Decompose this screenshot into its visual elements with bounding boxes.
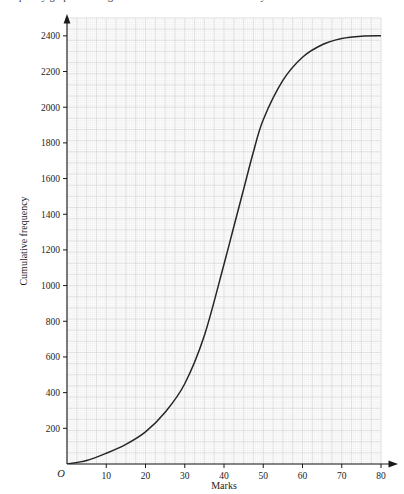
x-tick-label: 60 <box>298 471 308 481</box>
y-tick-label: 800 <box>46 317 61 327</box>
origin-label: O <box>57 468 65 479</box>
y-tick-label: 200 <box>46 424 61 434</box>
y-tick-label: 400 <box>46 388 61 398</box>
y-tick-label: 1800 <box>41 138 60 148</box>
y-tick-label: 1000 <box>41 281 60 291</box>
y-tick-label: 1200 <box>41 245 60 255</box>
y-axis-ticks: 2004006008001000120014001600180020002200… <box>41 31 67 433</box>
y-tick-label: 600 <box>46 352 61 362</box>
x-tick-label: 20 <box>141 471 151 481</box>
grid-major-lines <box>67 18 381 464</box>
y-tick-label: 1400 <box>41 210 60 220</box>
x-tick-label: 40 <box>219 471 229 481</box>
y-tick-label: 2400 <box>41 31 60 41</box>
x-tick-label: 10 <box>102 471 112 481</box>
cumulative-frequency-figure: 2004006008001000120014001600180020002200… <box>0 0 404 494</box>
y-tick-label: 2000 <box>41 103 60 113</box>
x-tick-label: 30 <box>180 471 190 481</box>
y-tick-label: 1600 <box>41 174 60 184</box>
y-axis-title: Cumulative frequency <box>18 196 29 285</box>
x-tick-label: 80 <box>376 471 386 481</box>
x-axis-ticks: 1020304050607080 <box>102 464 387 481</box>
x-axis-arrowhead <box>389 461 399 468</box>
x-axis-title: Marks <box>211 480 237 491</box>
x-tick-label: 50 <box>259 471 269 481</box>
x-tick-label: 70 <box>337 471 347 481</box>
page-root: frequency graph showing the distribution… <box>0 0 404 494</box>
chart-svg: 2004006008001000120014001600180020002200… <box>0 0 404 494</box>
y-tick-label: 2200 <box>41 67 60 77</box>
